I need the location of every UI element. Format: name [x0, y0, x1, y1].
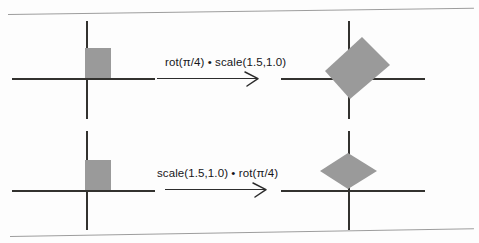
top-result-parallelogram [322, 27, 394, 103]
top-operation-label: rot(π/4) • scale(1.5,1.0) [165, 56, 286, 68]
bottom-result-diamond [319, 152, 379, 191]
transformation-figure: rot(π/4) • scale(1.5,1.0) scale(1.5,1.0)… [0, 0, 479, 243]
bottom-source-square [85, 160, 111, 190]
top-arrowhead-icon [157, 69, 269, 89]
bottom-arrowhead-icon [165, 180, 277, 200]
page-rule-bottom [10, 228, 474, 237]
page-rule-top [8, 8, 474, 15]
bottom-source-axis-horizontal [12, 190, 155, 192]
top-source-square [85, 48, 111, 78]
bottom-operation-label: scale(1.5,1.0) • rot(π/4) [157, 167, 278, 179]
top-source-axis-horizontal [12, 78, 155, 80]
